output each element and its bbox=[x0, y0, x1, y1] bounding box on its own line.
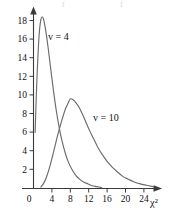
x-axis-title-group: χ² bbox=[149, 197, 158, 208]
curve-label-v10: v = 10 bbox=[93, 112, 119, 123]
x-tick-label-8: 8 bbox=[68, 194, 73, 204]
curve-label-v4: v = 4 bbox=[48, 31, 69, 42]
y-tick-group: 18 16 14 12 10 8 6 4 2 bbox=[18, 16, 34, 175]
scan-artifact-glyph-2: f bbox=[120, 0, 123, 9]
y-tick-label-8: 8 bbox=[22, 109, 27, 119]
axis-group bbox=[22, 7, 162, 192]
y-tick-label-12: 12 bbox=[18, 72, 28, 82]
x-tick-label-16: 16 bbox=[102, 194, 112, 204]
y-tick-label-18: 18 bbox=[18, 16, 28, 26]
annotation-group: v = 4 v = 10 bbox=[48, 31, 119, 123]
chi-square-distribution-chart: f f 18 16 14 12 10 8 bbox=[0, 0, 170, 212]
y-tick-label-4: 4 bbox=[22, 146, 27, 156]
x-tick-label-0: 0 bbox=[27, 194, 32, 204]
x-tick-label-24: 24 bbox=[139, 194, 149, 204]
y-tick-label-10: 10 bbox=[18, 90, 28, 100]
curve-group bbox=[35, 17, 153, 188]
x-tick-label-4: 4 bbox=[50, 194, 55, 204]
x-tick-label-12: 12 bbox=[84, 194, 94, 204]
x-axis-arrow-icon bbox=[154, 185, 163, 192]
scan-artifact-top: f f bbox=[62, 0, 123, 9]
y-tick-label-14: 14 bbox=[18, 53, 28, 63]
y-tick-label-2: 2 bbox=[22, 165, 27, 175]
x-axis-title: χ² bbox=[149, 197, 158, 208]
chart-canvas: f f 18 16 14 12 10 8 bbox=[0, 0, 170, 212]
y-tick-label-6: 6 bbox=[22, 127, 27, 137]
y-axis-arrow-icon bbox=[30, 7, 37, 15]
y-tick-label-16: 16 bbox=[18, 34, 28, 44]
x-tick-label-20: 20 bbox=[121, 194, 131, 204]
scan-artifact-glyph-1: f bbox=[62, 0, 65, 9]
x-tick-group: 0 4 8 12 16 20 24 bbox=[27, 189, 149, 205]
